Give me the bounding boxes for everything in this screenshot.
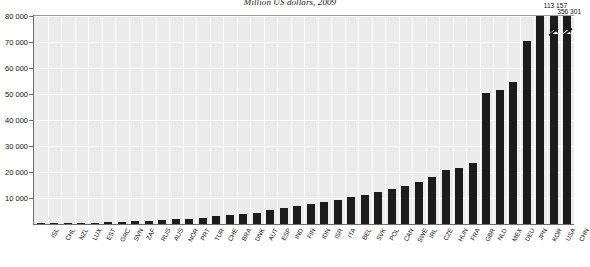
x-label-TUR: TUR <box>213 227 225 242</box>
bar-POL[interactable] <box>374 192 382 224</box>
x-label-SVK: SVK <box>375 227 387 242</box>
x-label-MEX: MEX <box>510 227 523 243</box>
bar-IRL[interactable] <box>415 182 423 224</box>
x-axis-line <box>33 224 574 225</box>
x-label-BEL: BEL <box>361 227 373 241</box>
bar-KOR[interactable] <box>536 16 544 224</box>
value-label-CHN: 356 301 <box>557 8 581 15</box>
bar-MEX[interactable] <box>496 90 504 224</box>
x-label-CAN: CAN <box>402 227 415 242</box>
x-label-DEU: DEU <box>523 227 536 242</box>
x-label-NOR: NOR <box>186 227 199 243</box>
bar-AUT[interactable] <box>253 213 261 224</box>
y-tick-label-70000: 70 000 <box>0 38 28 47</box>
bar-DNK[interactable] <box>239 214 247 224</box>
y-tick-label-40000: 40 000 <box>0 116 28 125</box>
bar-ZAF[interactable] <box>131 221 139 224</box>
bar-FIN[interactable] <box>293 206 301 224</box>
x-label-AUT: AUT <box>267 227 279 242</box>
x-label-PRT: PRT <box>199 227 211 241</box>
bar-BRA[interactable] <box>226 215 234 224</box>
x-label-CHE: CHE <box>226 227 239 242</box>
chart-title: Million US dollars, 2009 <box>0 0 580 7</box>
y-tick-label-20000: 20 000 <box>0 168 28 177</box>
bar-CAN[interactable] <box>388 189 396 224</box>
y-tick-label-10000: 10 000 <box>0 194 28 203</box>
bar-TUR[interactable] <box>199 218 207 225</box>
x-label-DNK: DNK <box>253 227 266 242</box>
bar-NOR[interactable] <box>172 219 180 224</box>
y-tick-label-60000: 60 000 <box>0 64 28 73</box>
bar-GRC[interactable] <box>104 222 112 224</box>
x-label-USA: USA <box>564 227 576 242</box>
bar-ISL[interactable] <box>37 223 45 224</box>
x-label-FRA: FRA <box>469 227 481 242</box>
y-tick-label-30000: 30 000 <box>0 142 28 151</box>
x-label-AUS: AUS <box>172 227 184 242</box>
x-label-IDN: IDN <box>320 227 331 240</box>
x-label-BRA: BRA <box>240 227 252 242</box>
x-label-ISR: ISR <box>333 227 344 240</box>
x-label-FIN: FIN <box>306 227 317 239</box>
x-label-GRC: GRC <box>119 227 132 243</box>
x-label-SVN: SVN <box>132 227 144 242</box>
x-label-ITA: ITA <box>346 227 357 239</box>
bar-GBR[interactable] <box>469 163 477 224</box>
bar-JPN[interactable] <box>523 41 531 224</box>
bar-ISR[interactable] <box>320 202 328 224</box>
bar-SWE[interactable] <box>401 186 409 224</box>
bar-DEU[interactable] <box>509 82 517 224</box>
bar-PRT[interactable] <box>185 219 193 224</box>
bar-NZL[interactable] <box>64 223 72 224</box>
bar-HUN[interactable] <box>442 170 450 224</box>
x-label-JPN: JPN <box>536 227 548 241</box>
bar-CHL[interactable] <box>50 223 58 224</box>
x-label-ESP: ESP <box>280 227 292 242</box>
x-axis-labels: ISLCHLNZLLUXESTGRCSVNZAFRUSAUSNORPRTTURC… <box>34 226 574 267</box>
bar-AUS[interactable] <box>158 220 166 224</box>
x-label-NLD: NLD <box>496 227 508 242</box>
bar-EST[interactable] <box>91 223 99 224</box>
bar-ESP[interactable] <box>266 210 274 224</box>
y-tick-label-50000: 50 000 <box>0 90 28 99</box>
x-label-EST: EST <box>104 227 116 241</box>
x-label-RUS: RUS <box>159 227 172 242</box>
x-label-NZL: NZL <box>77 227 89 241</box>
bar-CHN[interactable] <box>563 16 571 224</box>
bar-RUS[interactable] <box>145 221 153 224</box>
x-label-POL: POL <box>388 227 400 242</box>
x-label-CZE: CZE <box>442 227 454 242</box>
bar-USA[interactable] <box>550 16 558 224</box>
x-label-ISL: ISL <box>49 227 60 239</box>
x-label-IND: IND <box>293 227 304 240</box>
bar-LUX[interactable] <box>77 223 85 224</box>
bar-CHE[interactable] <box>212 216 220 224</box>
bar-BEL[interactable] <box>347 197 355 224</box>
x-label-GBR: GBR <box>483 227 496 243</box>
y-tick-label-80000: 80 000 <box>0 12 28 21</box>
x-label-LUX: LUX <box>91 227 103 241</box>
bar-IDN[interactable] <box>307 204 315 224</box>
bar-IND[interactable] <box>280 208 288 224</box>
bar-NLD[interactable] <box>482 93 490 224</box>
bar-SVN[interactable] <box>118 222 126 224</box>
x-label-ZAF: ZAF <box>145 227 157 241</box>
x-label-HUN: HUN <box>456 227 469 243</box>
x-label-CHL: CHL <box>64 227 76 242</box>
x-label-IRL: IRL <box>427 227 438 239</box>
bar-ITA[interactable] <box>334 200 342 224</box>
bar-SVK[interactable] <box>361 195 369 224</box>
x-label-CHN: CHN <box>578 227 590 243</box>
bars-layer <box>34 16 574 224</box>
x-label-KOR: KOR <box>551 227 564 243</box>
bar-FRA[interactable] <box>455 168 463 224</box>
bar-CZE[interactable] <box>428 177 436 224</box>
